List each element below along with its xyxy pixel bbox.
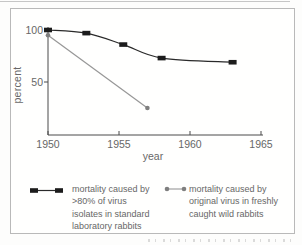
- legend-text-line: laboratory rabbits: [72, 220, 150, 232]
- legend-item-wild-rabbits: mortality caused by original virus in fr…: [189, 183, 278, 220]
- legend-text-line: original virus in freshly: [189, 195, 278, 207]
- legend-text-line: caught wild rabbits: [189, 208, 278, 220]
- x-tick-label-1950: 1950: [28, 139, 68, 150]
- legend-text-line: mortality caused by: [189, 183, 278, 195]
- series-2: [46, 33, 150, 110]
- figure-page: 100 50 1950 1955 1960 1965 year percent …: [0, 0, 302, 245]
- legend-text-line: mortality caused by: [72, 183, 150, 195]
- y-axis-label: percent: [12, 66, 23, 103]
- axes: [44, 27, 263, 135]
- legend-item-lab-rabbits: mortality caused by >80% of virus isolat…: [72, 183, 150, 233]
- legend-text-line: >80% of virus: [72, 195, 150, 207]
- scan-artifact-bottom: [148, 239, 298, 242]
- x-axis-label: year: [128, 151, 178, 162]
- x-tick-label-1955: 1955: [99, 139, 139, 150]
- legend-marker-wild-rabbits: [165, 187, 187, 192]
- legend-marker-lab-rabbits: [30, 188, 63, 193]
- x-tick-label-1965: 1965: [241, 139, 281, 150]
- y-tick-label-100: 100: [12, 25, 43, 36]
- legend-text-line: isolates in standard: [72, 208, 150, 220]
- x-tick-label-1960: 1960: [170, 139, 210, 150]
- series-1: [44, 28, 237, 65]
